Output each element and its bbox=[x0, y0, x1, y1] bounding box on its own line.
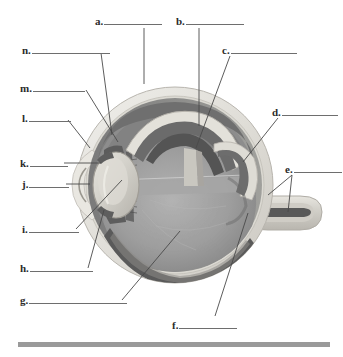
label-n-letter: n. bbox=[22, 44, 31, 56]
label-g-letter: g. bbox=[20, 294, 28, 306]
label-b-blank[interactable] bbox=[186, 15, 244, 25]
label-l[interactable]: l. bbox=[22, 112, 71, 124]
label-h[interactable]: h. bbox=[20, 262, 93, 274]
label-f-letter: f. bbox=[172, 319, 178, 331]
label-d[interactable]: d. bbox=[272, 106, 338, 118]
label-g-blank[interactable] bbox=[29, 294, 127, 304]
label-k[interactable]: k. bbox=[20, 157, 68, 169]
label-i-letter: i. bbox=[22, 223, 28, 235]
label-m-letter: m. bbox=[20, 82, 32, 94]
label-l-letter: l. bbox=[22, 112, 28, 124]
label-f-blank[interactable] bbox=[179, 319, 237, 329]
label-k-blank[interactable] bbox=[30, 157, 68, 167]
bottom-divider-bar bbox=[18, 342, 330, 347]
label-b-letter: b. bbox=[176, 15, 185, 27]
label-c-blank[interactable] bbox=[231, 44, 297, 54]
label-e-blank[interactable] bbox=[294, 163, 342, 173]
label-i-blank[interactable] bbox=[29, 223, 79, 233]
label-c[interactable]: c. bbox=[222, 44, 297, 56]
label-c-letter: c. bbox=[222, 44, 230, 56]
label-a-letter: a. bbox=[95, 15, 103, 27]
label-h-letter: h. bbox=[20, 262, 29, 274]
label-f[interactable]: f. bbox=[172, 319, 237, 331]
label-j-letter: j. bbox=[22, 178, 28, 190]
label-m-blank[interactable] bbox=[33, 82, 85, 92]
label-g[interactable]: g. bbox=[20, 294, 127, 306]
label-d-blank[interactable] bbox=[282, 106, 338, 116]
label-m[interactable]: m. bbox=[20, 82, 85, 94]
label-j[interactable]: j. bbox=[22, 178, 69, 190]
label-i[interactable]: i. bbox=[22, 223, 79, 235]
label-n-blank[interactable] bbox=[32, 44, 110, 54]
label-k-letter: k. bbox=[20, 157, 29, 169]
label-n[interactable]: n. bbox=[22, 44, 110, 56]
eye-diagram-page: a. b. c. d. e. f. g. h. i. j. k. l. m. n… bbox=[0, 0, 343, 357]
label-a-blank[interactable] bbox=[104, 15, 162, 25]
label-e[interactable]: e. bbox=[285, 163, 342, 175]
label-d-letter: d. bbox=[272, 106, 281, 118]
label-b[interactable]: b. bbox=[176, 15, 244, 27]
label-l-blank[interactable] bbox=[29, 112, 71, 122]
label-e-letter: e. bbox=[285, 163, 293, 175]
label-j-blank[interactable] bbox=[29, 178, 69, 188]
label-a[interactable]: a. bbox=[95, 15, 162, 27]
label-h-blank[interactable] bbox=[30, 262, 93, 272]
